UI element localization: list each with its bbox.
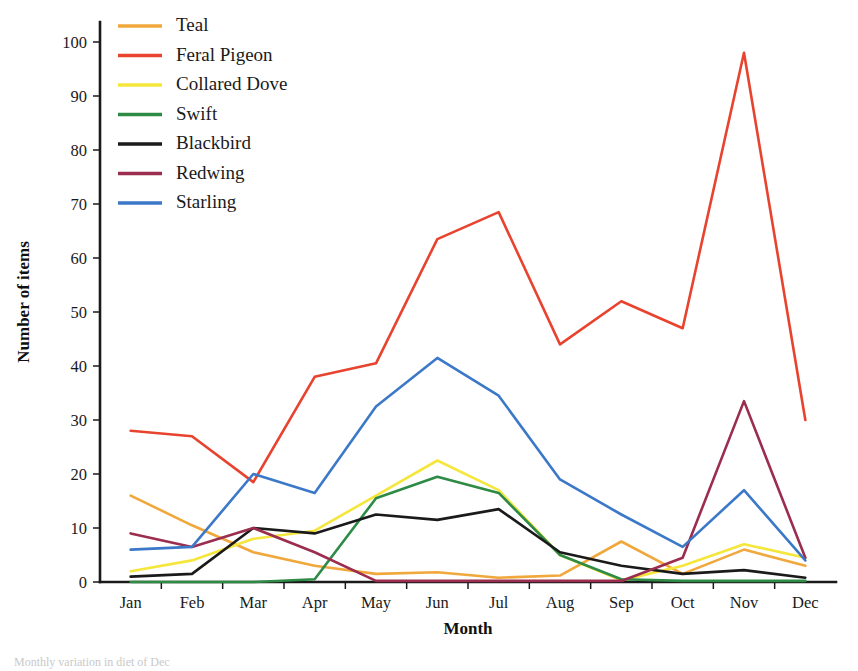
series-line-redwing bbox=[131, 401, 806, 581]
y-tick-label: 10 bbox=[71, 519, 88, 538]
x-tick-label: Jul bbox=[489, 593, 509, 612]
legend-label-teal: Teal bbox=[176, 14, 208, 35]
x-tick-label: Oct bbox=[671, 593, 695, 612]
y-axis-title: Number of items bbox=[14, 241, 33, 363]
legend-label-starling: Starling bbox=[176, 191, 237, 212]
y-tick-label: 0 bbox=[79, 573, 87, 592]
x-tick-label: Feb bbox=[180, 593, 205, 612]
y-tick-label: 50 bbox=[71, 303, 88, 322]
legend-label-redwing: Redwing bbox=[176, 162, 245, 183]
x-tick-label: Nov bbox=[730, 593, 759, 612]
line-chart-figure: 0102030405060708090100 JanFebMarAprMayJu… bbox=[0, 0, 858, 671]
legend-label-blackbird: Blackbird bbox=[176, 132, 251, 153]
x-tick-label: Dec bbox=[792, 593, 819, 612]
x-tick-label: Apr bbox=[302, 593, 328, 612]
series-line-feral-pigeon bbox=[131, 53, 806, 482]
series-line-blackbird bbox=[131, 509, 806, 578]
y-tick-label: 90 bbox=[71, 87, 88, 106]
x-tick-label: May bbox=[361, 593, 392, 612]
x-tick-label: Sep bbox=[609, 593, 634, 612]
x-axis-ticks: JanFebMarAprMayJunJulAugSepOctNovDec bbox=[120, 582, 819, 612]
x-axis-title: Month bbox=[443, 619, 493, 638]
series-line-starling bbox=[131, 358, 806, 561]
x-tick-label: Jan bbox=[120, 593, 142, 612]
legend-label-feral-pigeon: Feral Pigeon bbox=[176, 44, 273, 65]
y-tick-label: 30 bbox=[71, 411, 88, 430]
y-axis-ticks: 0102030405060708090100 bbox=[62, 33, 100, 592]
legend-label-swift: Swift bbox=[176, 103, 218, 124]
y-tick-label: 70 bbox=[71, 195, 88, 214]
chart-legend: TealFeral PigeonCollared DoveSwiftBlackb… bbox=[118, 14, 287, 212]
x-tick-label: Aug bbox=[546, 593, 574, 612]
series-line-collared-dove bbox=[131, 461, 806, 581]
x-tick-label: Jun bbox=[426, 593, 449, 612]
y-tick-label: 80 bbox=[71, 141, 88, 160]
x-tick-label: Mar bbox=[240, 593, 268, 612]
y-tick-label: 100 bbox=[62, 33, 87, 52]
figure-caption: Monthly variation in diet of Dec bbox=[14, 655, 844, 670]
series-line-teal bbox=[131, 496, 806, 578]
y-tick-label: 20 bbox=[71, 465, 88, 484]
chart-canvas: 0102030405060708090100 JanFebMarAprMayJu… bbox=[0, 0, 858, 671]
y-tick-label: 40 bbox=[71, 357, 88, 376]
y-tick-label: 60 bbox=[71, 249, 88, 268]
legend-label-collared-dove: Collared Dove bbox=[176, 73, 287, 94]
